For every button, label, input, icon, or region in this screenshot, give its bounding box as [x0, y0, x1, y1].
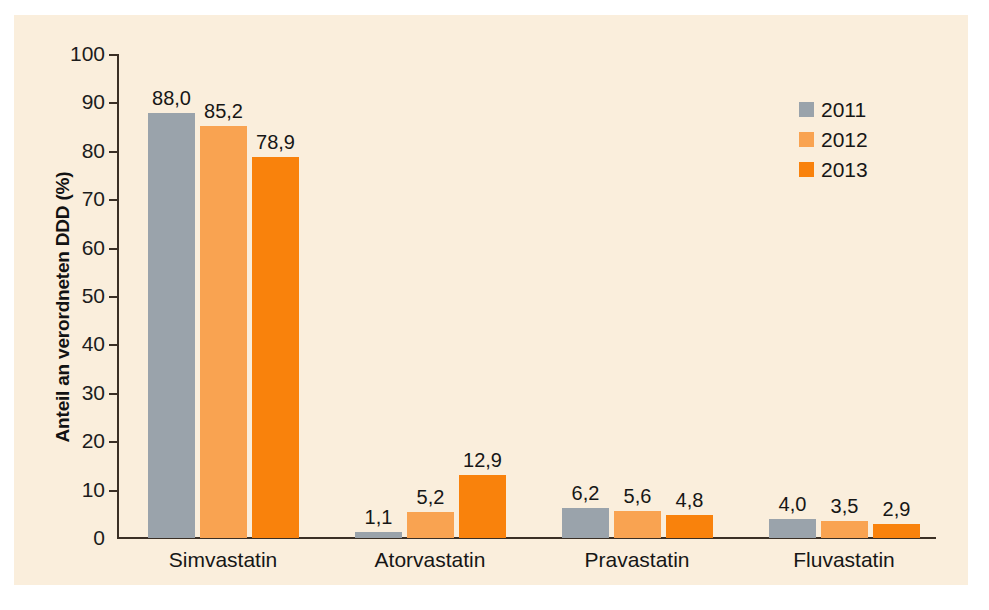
legend-item-2012[interactable]: 2012	[799, 126, 929, 156]
y-tick-mark-50	[109, 296, 117, 298]
y-tick-label-40: 40	[57, 333, 105, 354]
legend-label: 2011	[821, 96, 866, 124]
bar-rect	[355, 532, 402, 538]
y-tick-label-90: 90	[57, 91, 105, 112]
y-tick-row-60: 60	[45, 248, 105, 249]
legend-item-2013[interactable]: 2013	[799, 156, 929, 186]
bar-rect	[873, 524, 920, 538]
bar-value-label: 1,1	[342, 507, 415, 527]
chart-legend: 2011 2012 2013	[799, 96, 929, 186]
y-tick-row-20: 20	[45, 441, 105, 442]
y-tick-mark-10	[109, 490, 117, 492]
bar-value-label: 78,9	[239, 132, 312, 152]
bar-rect	[200, 126, 247, 538]
y-tick-label-20: 20	[57, 430, 105, 451]
y-tick-mark-80	[109, 151, 117, 153]
y-tick-mark-60	[109, 248, 117, 250]
x-category-label-pravastatin: Pravastatin	[522, 548, 752, 572]
y-tick-row-50: 50	[45, 296, 105, 297]
bar-rect	[562, 508, 609, 538]
legend-label: 2013	[821, 156, 868, 184]
y-tick-label-0: 0	[57, 527, 105, 548]
chart-figure: Anteil an verordneten DDD (%) 100 90 80 …	[0, 0, 989, 610]
x-category-label-simvastatin: Simvastatin	[108, 548, 338, 572]
y-tick-row-80: 80	[45, 151, 105, 152]
y-tick-label-70: 70	[57, 188, 105, 209]
bar-value-label: 85,2	[187, 101, 260, 121]
y-tick-row-0: 0	[45, 538, 105, 539]
legend-swatch-icon	[799, 102, 814, 117]
legend-swatch-icon	[799, 132, 814, 147]
x-category-label-atorvastatin: Atorvastatin	[315, 548, 545, 572]
y-tick-label-30: 30	[57, 382, 105, 403]
bar-value-label: 12,9	[446, 450, 519, 470]
bar-value-label: 2,9	[860, 499, 933, 519]
y-tick-mark-90	[109, 102, 117, 104]
bar-rect	[148, 113, 195, 538]
bar-rect	[666, 515, 713, 538]
y-tick-row-90: 90	[45, 102, 105, 103]
y-tick-mark-20	[109, 441, 117, 443]
x-category-label-fluvastatin: Fluvastatin	[729, 548, 959, 572]
plot-area: Anteil an verordneten DDD (%) 100 90 80 …	[0, 0, 989, 610]
y-tick-label-50: 50	[57, 285, 105, 306]
y-tick-mark-70	[109, 199, 117, 201]
y-tick-label-60: 60	[57, 237, 105, 258]
y-tick-row-40: 40	[45, 344, 105, 345]
y-tick-mark-40	[109, 344, 117, 346]
bar-rect	[407, 512, 454, 538]
y-tick-mark-30	[109, 393, 117, 395]
bar-rect	[821, 521, 868, 538]
y-tick-label-10: 10	[57, 479, 105, 500]
y-tick-label-80: 80	[57, 140, 105, 161]
legend-item-2011[interactable]: 2011	[799, 96, 929, 126]
y-tick-mark-100	[109, 54, 117, 56]
bar-rect	[252, 157, 299, 538]
legend-swatch-icon	[799, 162, 814, 177]
y-tick-row-100: 100	[45, 54, 105, 55]
y-tick-row-30: 30	[45, 393, 105, 394]
legend-label: 2012	[821, 126, 868, 154]
y-tick-row-10: 10	[45, 490, 105, 491]
bar-value-label: 5,2	[394, 487, 467, 507]
bar-value-label: 4,8	[653, 490, 726, 510]
bar-rect	[459, 475, 506, 538]
bar-rect	[614, 511, 661, 538]
y-axis-line	[117, 54, 119, 539]
y-tick-label-100: 100	[57, 43, 105, 64]
y-tick-row-70: 70	[45, 199, 105, 200]
bar-rect	[769, 519, 816, 538]
